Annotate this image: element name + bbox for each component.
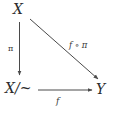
edge-label-pi: π bbox=[8, 45, 13, 53]
node-label-x-quotient: X/~ bbox=[5, 81, 31, 95]
commutative-diagram: X X/~ Y π f f ∘ π bbox=[0, 0, 115, 118]
edge-label-f-compose-pi: f ∘ π bbox=[69, 41, 87, 50]
node-label-x: X bbox=[13, 2, 23, 16]
edge-label-f: f bbox=[56, 97, 59, 106]
node-label-y: Y bbox=[96, 82, 105, 96]
arrow-f-compose-pi bbox=[30, 19, 98, 79]
